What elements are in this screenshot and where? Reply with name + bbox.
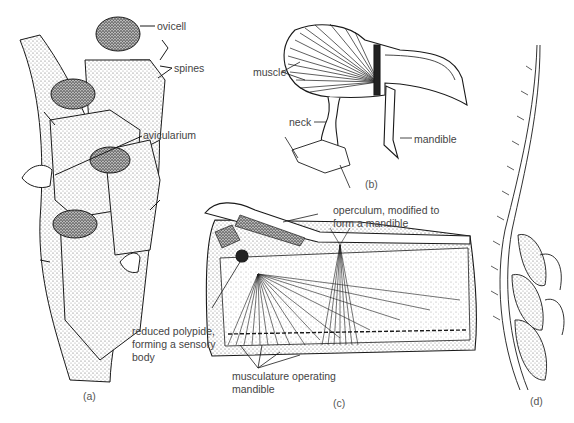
caption-d: (d) [530, 395, 543, 407]
label-operculum-line1: operculum, modified to [333, 204, 439, 216]
bryozoan-figure: ovicell spines avicularium (a) muscle ne… [0, 0, 574, 423]
caption-b: (b) [365, 178, 378, 190]
label-avicularium: avicularium [143, 129, 196, 141]
label-mandible-b: mandible [414, 133, 457, 145]
label-ovicell: ovicell [157, 20, 186, 32]
label-polypide-line1: reduced polypide, [132, 325, 215, 337]
panel-d-drawing [491, 45, 564, 390]
label-spines: spines [174, 62, 204, 74]
label-operculum-line2: form a mandible [333, 217, 408, 229]
label-polypide-line2: forming a sensory [132, 338, 215, 350]
label-musculature-line2: mandible [232, 383, 275, 395]
illustration-svg [0, 0, 574, 423]
caption-c: (c) [333, 397, 345, 409]
label-musculature-line1: musculature operating [232, 370, 336, 382]
label-neck: neck [289, 116, 311, 128]
label-polypide-line3: body [132, 351, 155, 363]
label-muscle: muscle [253, 66, 286, 78]
panel-b-drawing [282, 24, 467, 188]
caption-a: (a) [83, 390, 96, 402]
